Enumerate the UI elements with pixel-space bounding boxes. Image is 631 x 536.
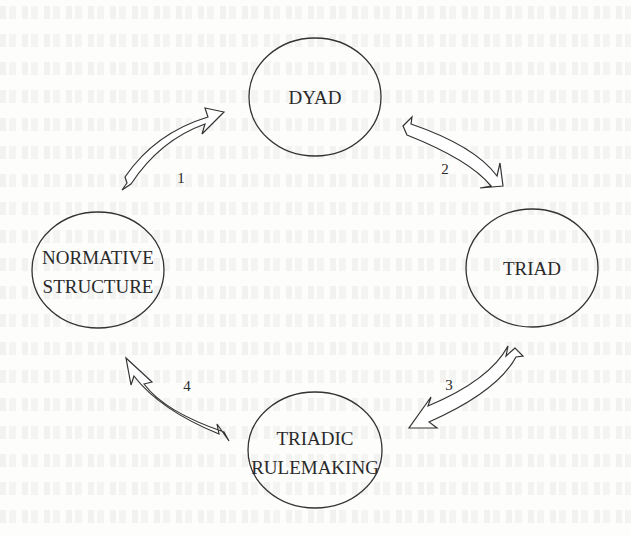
step-label-3: 3 (445, 377, 453, 393)
node-label: DYAD (289, 87, 342, 108)
arrow-1-icon (122, 108, 224, 190)
node-label: STRUCTURE (43, 276, 154, 297)
arrow-3-icon (409, 346, 523, 428)
node-triadic-rulemaking: TRIADIC RULEMAKING (248, 392, 382, 508)
arrow-2-icon (403, 117, 503, 188)
node-normative-structure: NORMATIVE STRUCTURE (32, 212, 164, 328)
step-label-4: 4 (183, 378, 191, 394)
step-label-1: 1 (177, 170, 185, 186)
node-label: TRIAD (503, 258, 561, 279)
node-label: NORMATIVE (42, 247, 154, 268)
node-label: TRIADIC (276, 428, 353, 449)
node-dyad: DYAD (249, 38, 381, 156)
node-triad: TRIAD (466, 209, 598, 327)
arrow-4-icon (126, 358, 229, 441)
cycle-diagram: DYAD TRIAD TRIADIC RULEMAKING NORMATIVE … (0, 0, 631, 536)
node-label: RULEMAKING (251, 457, 379, 478)
step-label-2: 2 (441, 161, 449, 177)
